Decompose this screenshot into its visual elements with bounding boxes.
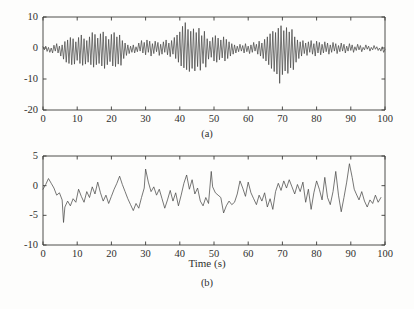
- panel-b-x-axis-title: Time (s): [0, 257, 414, 269]
- plot-frame: [43, 156, 385, 245]
- plot-frame: [43, 17, 385, 110]
- x-tick-label: 20: [106, 114, 117, 125]
- y-tick-label: -5: [29, 210, 38, 221]
- panel-a-caption: (a): [0, 128, 414, 139]
- y-tick-label: 0: [33, 180, 38, 191]
- chart-panel-b: 50-5-10 0102030405060708090100 Time (s) …: [0, 150, 414, 309]
- panel-b-axes: [43, 156, 385, 245]
- figure-container: 100-10-20 0102030405060708090100 (a) 50-…: [0, 0, 414, 309]
- panel-a-signal-trace: [43, 23, 385, 84]
- y-tick-label: 10: [28, 12, 39, 23]
- y-tick-label: 5: [33, 151, 38, 162]
- panel-a-tick-marks: [43, 17, 385, 110]
- y-tick-label: -10: [24, 240, 38, 251]
- panel-b-tick-marks: [43, 156, 385, 245]
- x-tick-label: 100: [377, 114, 393, 125]
- y-tick-label: 0: [33, 43, 38, 54]
- chart-panel-a: 100-10-20 0102030405060708090100 (a): [0, 0, 414, 150]
- panel-b-caption: (b): [0, 277, 414, 288]
- x-tick-label: 0: [40, 114, 45, 125]
- x-tick-label: 10: [72, 114, 83, 125]
- x-tick-label: 40: [175, 114, 186, 125]
- panel-b-signal-trace: [43, 164, 381, 223]
- x-tick-label: 60: [243, 114, 254, 125]
- x-tick-label: 30: [140, 114, 151, 125]
- x-tick-label: 50: [209, 114, 220, 125]
- panel-a-axes: [43, 17, 385, 110]
- x-tick-label: 80: [311, 114, 322, 125]
- x-tick-label: 90: [346, 114, 357, 125]
- x-tick-label: 70: [277, 114, 288, 125]
- y-tick-label: -10: [24, 74, 38, 85]
- y-tick-label: -20: [24, 105, 38, 116]
